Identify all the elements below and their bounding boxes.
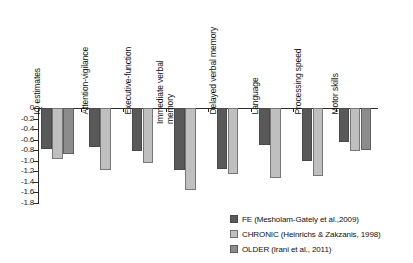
legend-item[interactable]: FE (Mesholam-Gately et al.,2009) bbox=[230, 212, 381, 226]
category-label: Delayed verbal memory bbox=[208, 27, 218, 115]
category-label: Attention-vigilance bbox=[81, 47, 91, 115]
bar-chronic bbox=[350, 108, 361, 151]
y-axis-tick-mark bbox=[33, 203, 38, 204]
bar-chronic bbox=[228, 108, 239, 174]
legend-label: OLDER (Irani et al., 2011) bbox=[242, 245, 331, 254]
bar-fe bbox=[174, 108, 185, 170]
chart-legend: FE (Mesholam-Gately et al.,2009)CHRONIC … bbox=[230, 212, 381, 257]
legend-color-swatch bbox=[230, 245, 238, 253]
legend-color-swatch bbox=[230, 230, 238, 238]
category-label: Processing speed bbox=[293, 49, 303, 115]
bar-chronic bbox=[143, 108, 154, 163]
legend-color-swatch bbox=[230, 215, 238, 223]
bar-fe bbox=[302, 108, 313, 161]
bar-fe bbox=[132, 108, 143, 151]
bar-chronic bbox=[313, 108, 324, 176]
legend-item[interactable]: CHRONIC (Heinrichs & Zakzanis, 1998) bbox=[230, 227, 381, 241]
bar-fe bbox=[339, 108, 350, 142]
bar-chart: 0-0.2-0.4-0.6-0.8-1.0-1.2-1.4-1.6-1.8 IQ… bbox=[0, 0, 413, 263]
bar-fe bbox=[259, 108, 270, 145]
legend-item[interactable]: OLDER (Irani et al., 2011) bbox=[230, 242, 381, 256]
category-label: Executive-function bbox=[123, 47, 133, 115]
bar-chronic bbox=[185, 108, 196, 190]
bar-fe bbox=[217, 108, 228, 169]
bar-older bbox=[63, 108, 74, 154]
legend-label: FE (Mesholam-Gately et al.,2009) bbox=[242, 215, 359, 224]
bar-chronic bbox=[52, 108, 63, 159]
bar-fe bbox=[41, 108, 52, 149]
legend-label: CHRONIC (Heinrichs & Zakzanis, 1998) bbox=[242, 230, 381, 239]
bar-chronic bbox=[270, 108, 281, 178]
bar-older bbox=[361, 108, 372, 150]
plot-area bbox=[38, 108, 378, 203]
bar-chronic bbox=[100, 108, 111, 170]
bar-fe bbox=[89, 108, 100, 147]
